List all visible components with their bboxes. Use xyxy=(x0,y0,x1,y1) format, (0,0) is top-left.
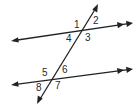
transversal-line xyxy=(37,4,98,104)
angle-label-1: 1 xyxy=(74,19,80,30)
angle-label-8: 8 xyxy=(36,82,42,93)
angle-label-7: 7 xyxy=(55,80,61,91)
angle-label-6: 6 xyxy=(62,64,68,75)
angle-label-5: 5 xyxy=(42,67,48,78)
bottom-parallel-line xyxy=(11,67,133,87)
angle-label-4: 4 xyxy=(66,33,72,44)
parallel-lines-transversal-diagram: 1 2 3 4 5 6 7 8 xyxy=(0,0,139,109)
angle-label-2: 2 xyxy=(93,15,99,26)
double-arrowhead-right-icon xyxy=(117,68,124,74)
double-arrowhead-right-icon-2 xyxy=(126,21,133,27)
arrowhead-left-icon xyxy=(11,37,19,42)
double-arrowhead-right-icon-2 xyxy=(126,67,133,73)
top-parallel-line xyxy=(11,21,133,43)
double-arrowhead-right-icon xyxy=(117,22,124,28)
arrowhead-left-icon xyxy=(11,81,19,86)
angle-label-3: 3 xyxy=(85,32,91,43)
